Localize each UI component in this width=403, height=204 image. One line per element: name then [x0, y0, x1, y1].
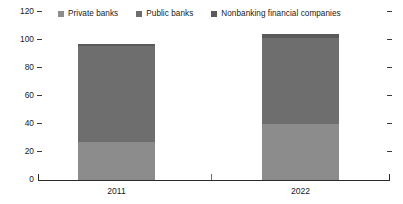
y-axis-tick-60: 60	[0, 91, 34, 100]
y-axis-tick-label-100: 100	[20, 35, 34, 44]
legend-item-private-banks[interactable]: Private banks	[58, 9, 118, 18]
y-axis-tick-label-60: 60	[25, 91, 34, 100]
bar-segment-2011-public-banks	[78, 46, 155, 142]
stacked-bar-chart: Private banks Public banks Nonbanking fi…	[0, 0, 403, 204]
y-axis-tick-label-120: 120	[20, 7, 34, 16]
y-axis-right-dash-100	[387, 39, 392, 40]
legend-label-private-banks: Private banks	[68, 9, 118, 18]
y-axis-right-dash-20	[387, 151, 392, 152]
x-axis-middle-tick	[211, 174, 212, 180]
bar-2011[interactable]	[78, 44, 155, 180]
x-axis-line	[38, 180, 390, 181]
chart-legend: Private banks Public banks Nonbanking fi…	[58, 9, 341, 18]
x-axis-left-end-tick	[38, 174, 39, 181]
legend-item-nonbanking-financial-companies[interactable]: Nonbanking financial companies	[211, 9, 340, 18]
y-axis-dash-40	[37, 123, 42, 124]
y-axis-right-dash-60	[387, 95, 392, 96]
x-axis-label-2022: 2022	[262, 186, 339, 196]
y-axis-tick-label-40: 40	[25, 119, 34, 128]
bar-segment-2022-public-banks	[262, 38, 339, 124]
y-axis-dash-80	[37, 67, 42, 68]
y-axis-tick-80: 80	[0, 63, 34, 72]
y-axis-tick-40: 40	[0, 119, 34, 128]
y-axis-right-dash-80	[387, 67, 392, 68]
legend-swatch-public-banks	[136, 11, 142, 17]
y-axis-dash-100	[37, 39, 42, 40]
y-axis-tick-label-80: 80	[25, 63, 34, 72]
bar-2022[interactable]	[262, 34, 339, 180]
y-axis-tick-120: 120	[0, 7, 34, 16]
y-axis-right-dash-120	[387, 11, 392, 12]
legend-swatch-nonbanking-financial-companies	[211, 11, 217, 17]
y-axis-dash-20	[37, 151, 42, 152]
bar-segment-2022-private-banks	[262, 124, 339, 180]
y-axis-dash-60	[37, 95, 42, 96]
y-axis-tick-label-20: 20	[25, 147, 34, 156]
y-axis-tick-20: 20	[0, 147, 34, 156]
legend-item-public-banks[interactable]: Public banks	[136, 9, 193, 18]
x-axis-right-end-tick	[389, 174, 390, 181]
y-axis-right-dash-40	[387, 123, 392, 124]
y-axis-tick-100: 100	[0, 35, 34, 44]
y-axis-tick-label-0: 0	[29, 175, 34, 184]
legend-label-public-banks: Public banks	[146, 9, 193, 18]
x-axis-label-2011: 2011	[78, 186, 155, 196]
legend-label-nonbanking-financial-companies: Nonbanking financial companies	[221, 9, 340, 18]
bar-segment-2011-private-banks	[78, 142, 155, 180]
legend-swatch-private-banks	[58, 11, 64, 17]
y-axis-dash-120	[37, 11, 42, 12]
y-axis-tick-0: 0	[0, 175, 34, 184]
